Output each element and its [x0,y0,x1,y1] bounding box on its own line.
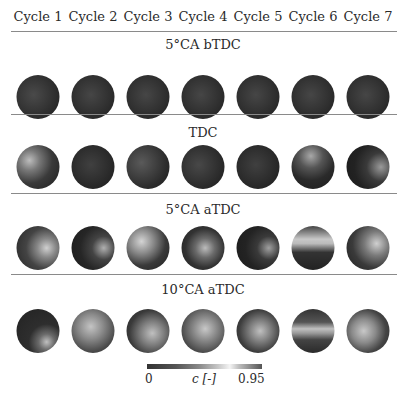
field-image [237,75,280,119]
field-image [127,75,170,119]
divider [11,193,397,194]
column-header: Cycle 1 Cycle 2 Cycle 3 Cycle 4 Cycle 5 … [10,9,398,27]
field-image [292,226,335,270]
colorbar-variable-label: c [-] [192,372,216,386]
field-image [127,145,170,189]
field-image [127,226,170,270]
divider [11,31,397,32]
col-cycle-4: Cycle 4 [175,9,231,24]
field-image [182,75,225,119]
field-image [292,309,335,353]
field-image [347,75,390,119]
field-image [182,226,225,270]
field-image [237,309,280,353]
field-image [17,226,60,270]
field-image [182,145,225,189]
field-image [72,145,115,189]
col-cycle-5: Cycle 5 [230,9,286,24]
row-label-5ca-atdc: 5°CA aTDC [0,202,406,217]
col-cycle-2: Cycle 2 [65,9,121,24]
field-image [237,226,280,270]
field-image [72,75,115,119]
field-image [347,309,390,353]
row-label-10ca-atdc: 10°CA aTDC [0,282,406,297]
row-label-5ca-btdc: 5°CA bTDC [0,37,406,52]
field-image [17,145,60,189]
col-cycle-6: Cycle 6 [285,9,341,24]
col-cycle-1: Cycle 1 [10,9,66,24]
field-image [237,145,280,189]
row-label-tdc: TDC [0,125,406,140]
field-image [182,309,225,353]
field-image [347,226,390,270]
col-cycle-3: Cycle 3 [120,9,176,24]
divider [11,114,397,115]
field-image [17,309,60,353]
colorbar-max-label: 0.95 [238,372,265,386]
field-image [347,145,390,189]
field-image [292,145,335,189]
field-image [72,309,115,353]
field-image [17,75,60,119]
field-image [72,226,115,270]
colorbar [147,364,262,369]
field-image [292,75,335,119]
field-image [127,309,170,353]
divider [11,274,397,275]
colorbar-min-label: 0 [145,372,153,386]
col-cycle-7: Cycle 7 [340,9,396,24]
